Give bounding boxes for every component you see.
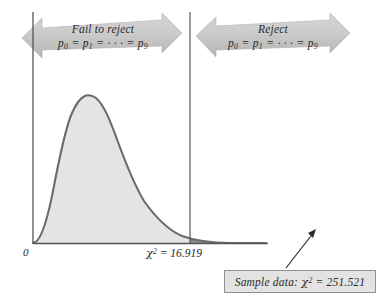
callout-leader-arrowhead — [308, 229, 316, 238]
axis-origin-label: 0 — [23, 246, 29, 258]
critical-value-label: χ2 = 16.919 — [146, 246, 202, 260]
fail-to-reject-area — [33, 95, 266, 243]
chi-square-hypothesis-test-figure: Fail to reject p0 = p1 = · · · = p9 Reje… — [0, 0, 386, 307]
banner-reject — [196, 13, 350, 57]
callout-leader-line — [286, 232, 314, 268]
sample-data-callout-text: Sample data: χ2 = 251.521 — [235, 275, 366, 289]
banner-fail-to-reject — [22, 13, 182, 58]
figure-canvas — [0, 0, 386, 307]
sample-data-callout-box: Sample data: χ2 = 251.521 — [224, 270, 376, 293]
